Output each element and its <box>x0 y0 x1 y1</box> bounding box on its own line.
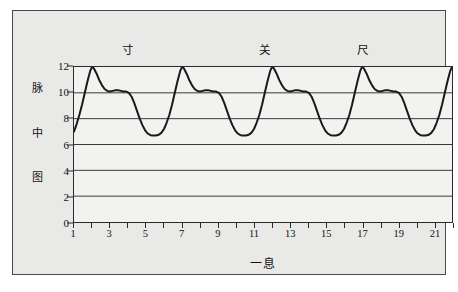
x-axis-tick-mark <box>417 223 418 228</box>
x-axis-tick-mark <box>91 223 92 228</box>
figure-frame: 脉 中 图 024681012 寸关尺 13579111315171921 一息 <box>12 10 446 275</box>
x-axis-tick-label: 13 <box>277 229 303 240</box>
x-axis-tick-label: 9 <box>205 229 231 240</box>
x-axis-tick-mark <box>453 223 454 228</box>
x-axis-tick-label: 17 <box>350 229 376 240</box>
y-axis-tick-label: 10 <box>47 87 69 98</box>
y-axis-tick-labels: 024681012 <box>41 66 69 223</box>
y-axis-tick-label: 2 <box>47 191 69 202</box>
chart-annotation-label: 关 <box>250 45 280 57</box>
y-axis-tick-label: 6 <box>47 139 69 150</box>
x-axis-tick-label: 1 <box>60 229 86 240</box>
y-axis-tick-label: 8 <box>47 113 69 124</box>
x-axis-tick-mark <box>236 223 237 228</box>
chart-annotations: 寸关尺 <box>73 45 453 63</box>
gridlines <box>74 93 452 196</box>
y-axis-tick-label: 0 <box>47 218 69 229</box>
chart-annotation-label: 寸 <box>112 45 142 57</box>
x-axis-title: 一息 <box>73 254 453 272</box>
x-axis-tick-label: 11 <box>241 229 267 240</box>
plot-area <box>73 66 453 223</box>
x-axis-tick-label: 7 <box>169 229 195 240</box>
x-axis-tick-labels: 13579111315171921 <box>73 229 453 245</box>
x-axis-tick-mark <box>163 223 164 228</box>
x-axis-tick-label: 3 <box>96 229 122 240</box>
plot-svg <box>74 67 452 222</box>
chart-annotation-label: 尺 <box>348 45 378 57</box>
x-axis-tick-mark <box>308 223 309 228</box>
x-axis-tick-label: 5 <box>132 229 158 240</box>
x-axis-tick-label: 21 <box>422 229 448 240</box>
x-axis-tick-label: 15 <box>313 229 339 240</box>
y-axis-tick-label: 12 <box>47 61 69 72</box>
x-axis-tick-mark <box>127 223 128 228</box>
x-axis-tick-label: 19 <box>386 229 412 240</box>
x-axis-tick-mark <box>381 223 382 228</box>
series-line-pulse <box>74 67 452 135</box>
x-axis-tick-mark <box>344 223 345 228</box>
x-axis-tick-mark <box>200 223 201 228</box>
figure-root: 脉 中 图 024681012 寸关尺 13579111315171921 一息 <box>0 0 458 292</box>
x-axis-tick-mark <box>272 223 273 228</box>
y-axis-tick-label: 4 <box>47 165 69 176</box>
